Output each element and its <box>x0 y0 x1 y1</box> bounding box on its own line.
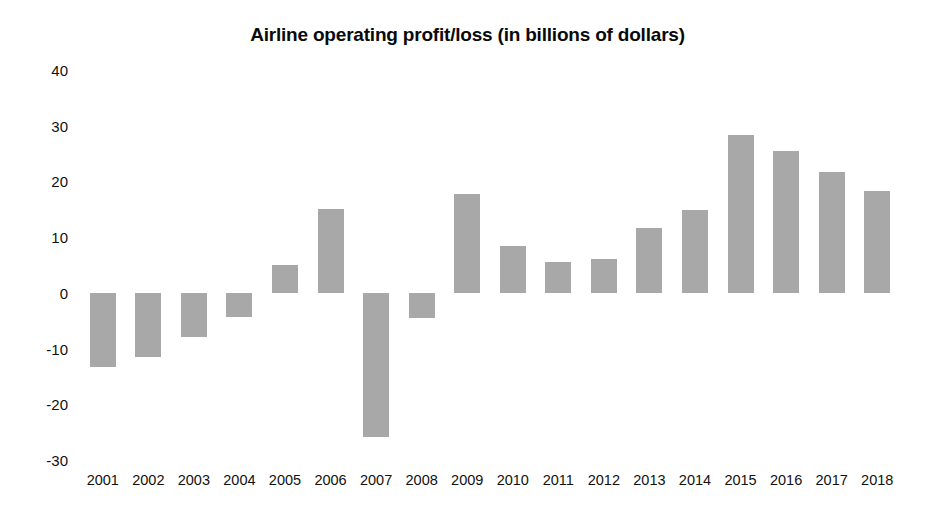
y-axis-tick-label: -10 <box>46 340 68 357</box>
bar <box>272 265 298 293</box>
plot-area: 403020100-10-20-30 200120022003200420052… <box>80 70 900 460</box>
bar <box>728 135 754 293</box>
bar <box>454 194 480 293</box>
bar <box>682 210 708 293</box>
bar <box>500 246 526 293</box>
bar <box>409 293 435 318</box>
x-axis-tick-label: 2018 <box>861 472 893 488</box>
bar <box>318 209 344 293</box>
y-axis-tick-label: 30 <box>51 117 68 134</box>
y-axis-tick-label: 20 <box>51 173 68 190</box>
zero-baseline <box>80 70 900 71</box>
bar <box>363 293 389 437</box>
x-axis-tick-label: 2004 <box>223 472 255 488</box>
x-axis-tick-label: 2011 <box>543 472 574 488</box>
x-axis-tick-label: 2009 <box>451 472 483 488</box>
x-axis-tick-label: 2007 <box>360 472 392 488</box>
bar <box>819 172 845 293</box>
x-axis-tick-label: 2005 <box>269 472 301 488</box>
x-axis-tick-label: 2002 <box>132 472 164 488</box>
x-axis-tick-label: 2010 <box>497 472 529 488</box>
bar <box>773 151 799 293</box>
x-axis-tick-label: 2012 <box>588 472 620 488</box>
y-axis-tick-label: -30 <box>46 452 68 469</box>
x-axis-tick-label: 2013 <box>633 472 665 488</box>
chart-title: Airline operating profit/loss (in billio… <box>0 24 935 46</box>
bar <box>135 293 161 357</box>
x-axis-tick-label: 2016 <box>770 472 802 488</box>
bar <box>591 259 617 293</box>
y-axis-tick-label: 40 <box>51 62 68 79</box>
y-axis-tick-label: 10 <box>51 229 68 246</box>
bar <box>90 293 116 367</box>
bar <box>181 293 207 337</box>
bar <box>226 293 252 317</box>
x-axis-tick-label: 2006 <box>314 472 346 488</box>
x-axis-tick-label: 2017 <box>816 472 848 488</box>
chart-container: Airline operating profit/loss (in billio… <box>0 0 935 520</box>
y-axis-tick-label: 0 <box>60 284 68 301</box>
x-axis-tick-label: 2001 <box>87 472 119 488</box>
x-axis-tick-label: 2014 <box>679 472 711 488</box>
bar <box>864 191 890 293</box>
x-axis-tick-label: 2008 <box>406 472 438 488</box>
x-axis-tick-label: 2003 <box>178 472 210 488</box>
y-axis-tick-label: -20 <box>46 396 68 413</box>
bar <box>545 262 571 293</box>
bar <box>636 228 662 293</box>
x-axis-tick-label: 2015 <box>724 472 756 488</box>
